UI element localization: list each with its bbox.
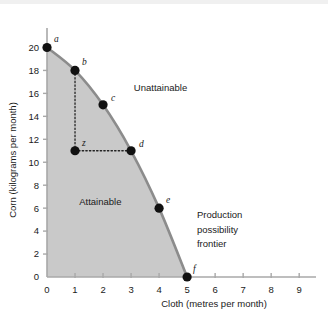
- svg-text:d: d: [139, 139, 144, 149]
- svg-text:14: 14: [28, 111, 39, 122]
- svg-text:2: 2: [100, 284, 105, 295]
- ppf-chart: 02468101214161820 0123456789 abcdefz Att…: [0, 0, 328, 316]
- svg-text:z: z: [81, 138, 86, 148]
- svg-text:0: 0: [34, 271, 39, 282]
- svg-text:10: 10: [28, 157, 39, 168]
- svg-text:b: b: [82, 57, 87, 67]
- annotation-frontier-line2: possibility: [197, 224, 238, 235]
- svg-text:3: 3: [128, 284, 133, 295]
- y-axis-tick-labels: 02468101214161820: [28, 42, 39, 283]
- svg-text:18: 18: [28, 65, 39, 76]
- chart-canvas: 02468101214161820 0123456789 abcdefz Att…: [0, 0, 328, 316]
- annotation-unattainable: Unattainable: [134, 82, 187, 93]
- svg-text:a: a: [54, 34, 59, 44]
- annotation-frontier-line1: Production: [197, 209, 242, 220]
- svg-text:9: 9: [297, 284, 302, 295]
- svg-text:e: e: [166, 195, 170, 205]
- svg-text:20: 20: [28, 42, 39, 53]
- svg-text:6: 6: [34, 203, 39, 214]
- x-axis-tick-labels: 0123456789: [44, 284, 301, 295]
- svg-text:2: 2: [34, 248, 39, 259]
- svg-text:8: 8: [34, 180, 39, 191]
- svg-text:5: 5: [184, 284, 189, 295]
- annotation-frontier-line3: frontier: [197, 238, 227, 249]
- svg-text:12: 12: [28, 134, 39, 145]
- svg-text:c: c: [111, 93, 116, 103]
- svg-text:7: 7: [240, 284, 245, 295]
- svg-text:8: 8: [269, 284, 274, 295]
- y-axis-title: Corn (kilograms per month): [7, 102, 18, 218]
- svg-text:16: 16: [28, 88, 39, 99]
- svg-text:0: 0: [44, 284, 49, 295]
- annotation-attainable: Attainable: [79, 196, 121, 207]
- svg-text:6: 6: [212, 284, 217, 295]
- svg-text:1: 1: [72, 284, 77, 295]
- svg-text:f: f: [193, 264, 197, 274]
- x-axis-title: Cloth (metres per month): [161, 298, 267, 309]
- svg-text:4: 4: [34, 225, 39, 236]
- svg-text:4: 4: [156, 284, 161, 295]
